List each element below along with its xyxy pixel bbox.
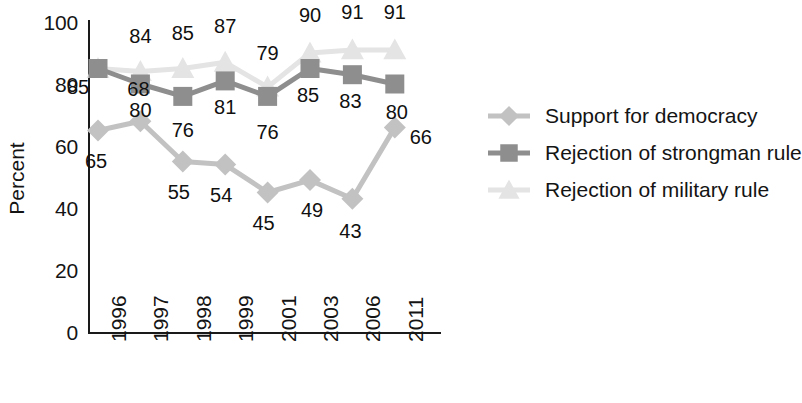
data-label: 84 [118,26,162,46]
data-point-marker [299,169,321,191]
data-label: 49 [290,200,334,220]
data-point-marker [341,188,363,210]
legend-item[interactable]: Support for democracy [487,98,787,133]
data-label: 55 [157,182,201,202]
data-label: 90 [288,5,332,25]
data-label: 45 [242,213,286,233]
data-label: 85 [286,85,330,105]
data-label: 80 [375,102,419,122]
legend-item[interactable]: Rejection of strongman rule [487,135,787,170]
data-label: 91 [330,2,374,22]
data-label: 81 [203,97,247,117]
data-label: 76 [161,120,205,140]
diamond-marker-icon [487,105,531,127]
data-label: 68 [116,79,160,99]
data-point-marker [343,65,362,84]
legend-label: Rejection of strongman rule [545,141,802,164]
triangle-marker-icon [487,179,531,201]
data-label: 83 [328,91,372,111]
data-point-marker [89,59,108,78]
data-label: 43 [328,221,372,241]
data-point-marker [173,87,192,106]
data-label: 54 [199,185,243,205]
legend: Support for democracyRejection of strong… [487,98,787,209]
data-label: 65 [74,151,118,171]
data-label: 85 [56,77,100,97]
data-point-marker [385,75,404,94]
data-label: 85 [161,23,205,43]
data-label: 91 [373,2,417,22]
data-point-marker [87,120,109,142]
legend-label: Rejection of military rule [545,178,769,201]
data-label: 87 [203,16,247,36]
data-point-marker [216,71,235,90]
data-point-marker [301,59,320,78]
legend-label: Support for democracy [545,104,757,127]
data-point-marker [258,87,277,106]
data-label: 80 [118,100,162,120]
legend-item[interactable]: Rejection of military rule [487,172,787,207]
data-label: 76 [246,122,290,142]
square-marker-icon [487,142,531,164]
data-label: 79 [246,43,290,63]
data-label: 66 [399,127,443,147]
